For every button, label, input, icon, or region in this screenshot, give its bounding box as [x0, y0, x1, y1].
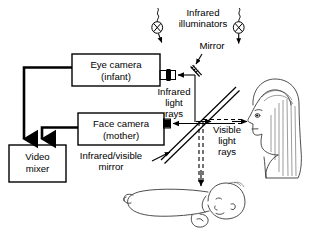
label-infrared-rays-line3: rays — [165, 108, 183, 119]
video-mixer-label-line1: Video — [25, 151, 49, 162]
video-cable-face-camera — [42, 128, 78, 140]
mother-head-profile — [248, 79, 301, 178]
video-mixer-label-line2: mixer — [26, 163, 50, 174]
label-infrared-rays-line1: Infrared — [157, 86, 190, 97]
face-camera-label-line2: (mother) — [103, 130, 139, 141]
label-infrared-illuminators-line1: Infrared — [186, 7, 219, 18]
infrared-illuminator-bulb-left — [152, 8, 163, 43]
label-mirror: Mirror — [199, 40, 225, 51]
label-visible-rays-line1: Visible — [213, 124, 241, 135]
label-infrared-illuminators-line2: illuminators — [179, 18, 228, 29]
eye-camera-lens — [160, 69, 176, 81]
label-beamsplitter-line2: mirror — [98, 161, 124, 172]
label-visible-rays-line3: rays — [218, 146, 236, 157]
eye-camera-label-line1: Eye camera — [90, 59, 142, 70]
infant-lying-figure — [124, 182, 245, 227]
face-camera-lens — [164, 119, 171, 128]
label-beamsplitter-line1: Infrared/visible — [80, 150, 142, 161]
mirror-pointer-arrow — [196, 54, 202, 64]
face-camera-label-line1: Face camera — [93, 118, 150, 129]
label-infrared-rays-line2: light — [165, 97, 183, 108]
eye-camera-label-line2: (infant) — [101, 71, 131, 82]
infrared-illuminator-bulb-right — [233, 8, 244, 44]
label-visible-rays-line2: light — [218, 135, 236, 146]
apparatus-diagram: Infrared illuminators Mirror Eye camera … — [0, 0, 313, 233]
